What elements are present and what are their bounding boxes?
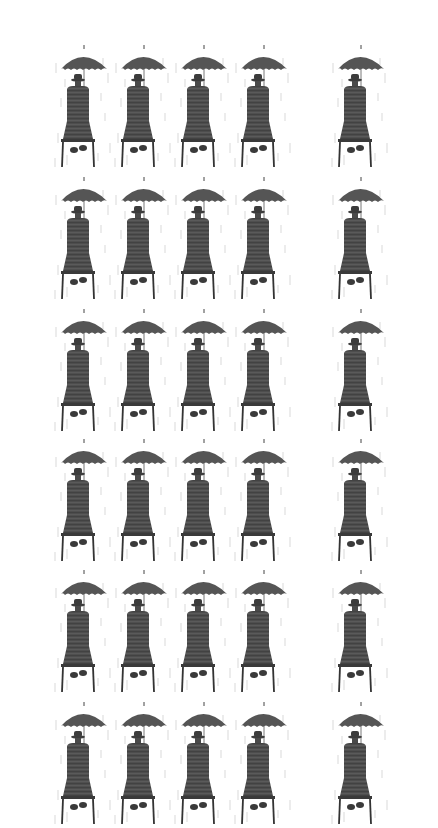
man-with-umbrella-on-stool-icon xyxy=(233,568,293,698)
man-with-umbrella-on-stool-icon xyxy=(173,437,233,567)
man-with-umbrella-on-stool-icon xyxy=(113,43,173,173)
man-with-umbrella-on-stool-icon xyxy=(113,437,173,567)
man-with-umbrella-on-stool-icon xyxy=(233,437,293,567)
man-with-umbrella-on-stool-icon xyxy=(113,307,173,437)
man-with-umbrella-on-stool-icon xyxy=(53,175,113,305)
man-with-umbrella-on-stool-icon xyxy=(53,700,113,828)
man-with-umbrella-on-stool-icon xyxy=(330,568,390,698)
man-with-umbrella-on-stool-icon xyxy=(113,700,173,828)
man-with-umbrella-on-stool-icon xyxy=(173,175,233,305)
man-with-umbrella-on-stool-icon xyxy=(53,43,113,173)
man-with-umbrella-on-stool-icon xyxy=(113,568,173,698)
man-with-umbrella-on-stool-icon xyxy=(53,568,113,698)
man-with-umbrella-on-stool-icon xyxy=(330,437,390,567)
man-with-umbrella-on-stool-icon xyxy=(173,43,233,173)
man-with-umbrella-on-stool-icon xyxy=(53,437,113,567)
man-with-umbrella-on-stool-icon xyxy=(233,700,293,828)
man-with-umbrella-on-stool-icon xyxy=(173,700,233,828)
man-with-umbrella-on-stool-icon xyxy=(233,175,293,305)
man-with-umbrella-on-stool-icon xyxy=(330,43,390,173)
man-with-umbrella-on-stool-icon xyxy=(53,307,113,437)
man-with-umbrella-on-stool-icon xyxy=(330,307,390,437)
man-with-umbrella-on-stool-icon xyxy=(173,307,233,437)
man-with-umbrella-on-stool-icon xyxy=(330,700,390,828)
man-with-umbrella-on-stool-icon xyxy=(233,43,293,173)
man-with-umbrella-on-stool-icon xyxy=(113,175,173,305)
man-with-umbrella-on-stool-icon xyxy=(173,568,233,698)
man-with-umbrella-on-stool-icon xyxy=(330,175,390,305)
man-with-umbrella-on-stool-icon xyxy=(233,307,293,437)
